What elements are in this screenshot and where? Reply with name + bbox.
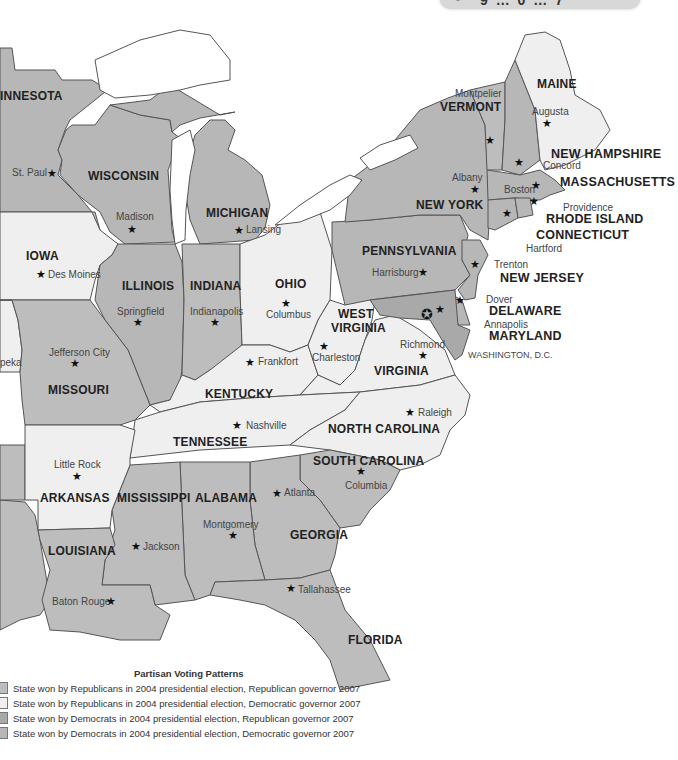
label-west-virginia-1: WEST bbox=[338, 308, 373, 320]
label-vermont: VERMONT bbox=[440, 101, 501, 113]
label-north-carolina: NORTH CAROLINA bbox=[328, 423, 440, 435]
capital-columbia: Columbia bbox=[345, 481, 387, 491]
capital-star-icon: ★ bbox=[131, 541, 141, 552]
eastern-us-map bbox=[0, 0, 678, 760]
legend-swatch bbox=[0, 712, 8, 724]
capital-star-icon: ★ bbox=[405, 407, 415, 418]
label-maine: MAINE bbox=[537, 78, 577, 90]
capital-trenton: Trenton bbox=[494, 260, 528, 270]
legend-label: State won by Republicans in 2004 preside… bbox=[13, 698, 360, 709]
capital-star-icon: ★ bbox=[127, 224, 137, 235]
label-virginia: VIRGINIA bbox=[374, 365, 429, 377]
capital-star-icon: ★ bbox=[356, 466, 366, 477]
capital-hartford: Hartford bbox=[526, 244, 562, 254]
capital-albany: Albany bbox=[452, 173, 483, 183]
capital-nashville: Nashville bbox=[246, 421, 287, 431]
label-missouri: MISSOURI bbox=[48, 384, 109, 396]
capital-star-icon: ★ bbox=[36, 269, 46, 280]
label-indiana: INDIANA bbox=[190, 280, 241, 292]
capital-star-icon: ★ bbox=[531, 180, 541, 191]
capital-star-icon: ★ bbox=[232, 420, 242, 431]
label-michigan: MICHIGAN bbox=[206, 207, 268, 219]
capital-star-icon: ★ bbox=[210, 317, 220, 328]
capital-star-icon: ★ bbox=[286, 583, 296, 594]
capital-star-icon: ★ bbox=[470, 259, 480, 270]
legend-item-rep-dem: State won by Republicans in 2004 preside… bbox=[0, 697, 360, 709]
capital-star-icon: ★ bbox=[272, 488, 282, 499]
capital-star-icon: ★ bbox=[502, 208, 512, 219]
legend-swatch bbox=[0, 727, 8, 739]
capital-lansing: Lansing bbox=[246, 225, 281, 235]
capital-star-icon: ★ bbox=[529, 196, 539, 207]
legend-title: Partisan Voting Patterns bbox=[134, 668, 244, 679]
label-west-virginia-2: VIRGINIA bbox=[331, 322, 386, 334]
legend-label: State won by Republicans in 2004 preside… bbox=[13, 683, 360, 694]
capital-star-icon: ★ bbox=[245, 357, 255, 368]
capital-montpelier: Montpelier bbox=[455, 89, 502, 99]
label-new-jersey: NEW JERSEY bbox=[500, 272, 584, 285]
legend-label: State won by Democrats in 2004 president… bbox=[13, 728, 354, 739]
capital-star-icon: ★ bbox=[70, 358, 80, 369]
capital-madison: Madison bbox=[116, 212, 154, 222]
label-minnesota: INNESOTA bbox=[0, 90, 63, 102]
label-louisiana: LOUISIANA bbox=[48, 545, 116, 557]
legend-item-rep-rep: State won by Republicans in 2004 preside… bbox=[0, 682, 360, 694]
label-maryland: MARYLAND bbox=[489, 330, 562, 343]
capital-des-moines: Des Moines bbox=[48, 270, 101, 280]
legend-swatch bbox=[0, 682, 8, 694]
label-connecticut: CONNECTICUT bbox=[536, 229, 629, 242]
capital-tallahassee: Tallahassee bbox=[298, 585, 351, 595]
label-wisconsin: WISCONSIN bbox=[88, 170, 159, 182]
label-dc: WASHINGTON, D.C. bbox=[468, 351, 553, 360]
label-arkansas: ARKANSAS bbox=[40, 492, 110, 504]
legend-swatch bbox=[0, 697, 8, 709]
label-pennsylvania: PENNSYLVANIA bbox=[362, 245, 457, 257]
capital-atlanta: Atlanta bbox=[284, 488, 315, 498]
capital-star-icon: ★ bbox=[455, 295, 465, 306]
capital-jackson: Jackson bbox=[143, 542, 180, 552]
capital-frankfort: Frankfort bbox=[258, 357, 298, 367]
label-ohio: OHIO bbox=[275, 278, 306, 290]
capital-topeka: peka bbox=[0, 358, 22, 368]
capital-star-icon: ★ bbox=[470, 184, 480, 195]
legend-label: State won by Democrats in 2004 president… bbox=[13, 713, 354, 724]
capital-star-icon: ★ bbox=[228, 530, 238, 541]
capital-star-icon: ★ bbox=[435, 304, 445, 315]
capital-star-icon: ★ bbox=[319, 341, 329, 352]
label-florida: FLORIDA bbox=[348, 634, 403, 646]
label-kentucky: KENTUCKY bbox=[205, 388, 273, 400]
label-rhode-island: RHODE ISLAND bbox=[546, 213, 644, 226]
capital-augusta: Augusta bbox=[532, 107, 569, 117]
label-alabama: ALABAMA bbox=[195, 492, 257, 504]
capital-baton-rouge: Baton Rouge bbox=[52, 597, 110, 607]
capital-star-icon: ★ bbox=[133, 317, 143, 328]
capital-star-icon: ★ bbox=[234, 225, 244, 236]
label-new-hampshire: NEW HAMPSHIRE bbox=[551, 148, 661, 161]
capital-star-icon: ★ bbox=[72, 471, 82, 482]
label-illinois: ILLINOIS bbox=[122, 280, 174, 292]
capital-concord: Concord bbox=[543, 161, 581, 171]
label-massachusetts: MASSACHUSETTS bbox=[560, 176, 675, 189]
label-tennessee: TENNESSEE bbox=[173, 436, 248, 448]
state-oklahoma bbox=[0, 445, 25, 500]
capital-star-icon: ★ bbox=[542, 118, 552, 129]
capital-star-icon: ★ bbox=[281, 298, 291, 309]
dc-star-icon: ✪ bbox=[421, 307, 433, 321]
capital-raleigh: Raleigh bbox=[418, 408, 452, 418]
label-new-york: NEW YORK bbox=[416, 199, 483, 211]
label-mississippi: MISSISSIPPI bbox=[117, 492, 191, 504]
capital-little-rock: Little Rock bbox=[54, 460, 101, 470]
capital-star-icon: ★ bbox=[514, 157, 524, 168]
label-iowa: IOWA bbox=[26, 250, 59, 262]
capital-st-paul: St. Paul bbox=[12, 168, 47, 178]
capital-star-icon: ★ bbox=[418, 350, 428, 361]
capital-harrisburg: Harrisburg bbox=[372, 268, 419, 278]
capital-star-icon: ★ bbox=[418, 267, 428, 278]
legend-item-dem-dem: State won by Democrats in 2004 president… bbox=[0, 727, 354, 739]
label-delaware: DELAWARE bbox=[489, 305, 561, 318]
label-south-carolina: SOUTH CAROLINA bbox=[313, 455, 424, 467]
label-georgia: GEORGIA bbox=[290, 529, 348, 541]
lake-superior bbox=[95, 30, 230, 98]
capital-star-icon: ★ bbox=[47, 168, 57, 179]
capital-charleston: Charleston bbox=[312, 353, 360, 363]
